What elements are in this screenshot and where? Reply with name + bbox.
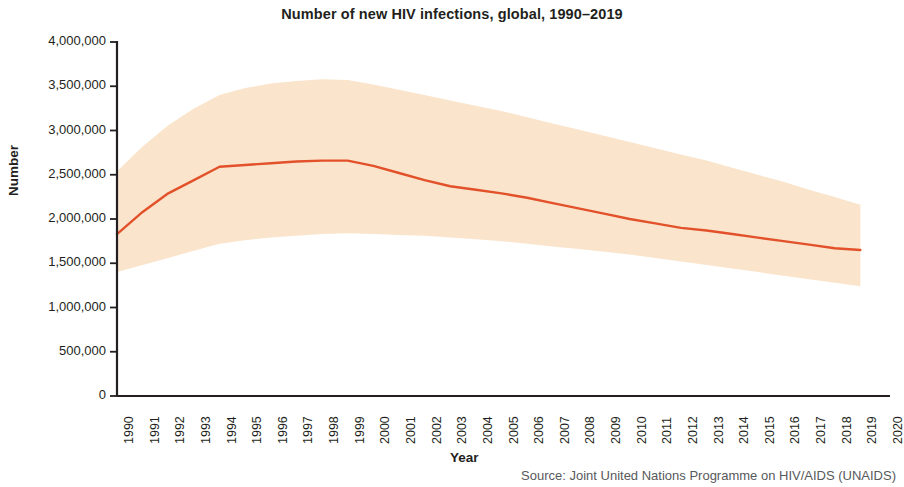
- uncertainty-band: [117, 79, 860, 286]
- x-tick-label-9: 1999: [353, 416, 367, 444]
- x-tick-label-11: 2001: [404, 416, 418, 444]
- y-tick-label-8: 4,000,000: [48, 33, 106, 48]
- x-tick-label-4: 1994: [225, 416, 239, 444]
- x-tick-label-10: 2000: [378, 416, 392, 444]
- x-tick-label-21: 2011: [660, 417, 674, 444]
- x-tick-label-28: 2018: [840, 416, 854, 444]
- x-tick-label-29: 2019: [865, 416, 879, 444]
- y-tick-label-2: 1,000,000: [48, 299, 106, 314]
- x-tick-label-18: 2008: [583, 416, 597, 444]
- y-tick-label-7: 3,500,000: [48, 77, 106, 92]
- x-tick-label-0: 1990: [122, 416, 136, 444]
- y-tick-label-1: 500,000: [59, 343, 106, 358]
- x-tick-label-22: 2012: [686, 416, 700, 444]
- x-axis-title: Year: [450, 450, 479, 465]
- chart-figure: Number of new HIV infections, global, 19…: [0, 0, 904, 487]
- x-tick-label-26: 2016: [788, 416, 802, 444]
- x-tick-label-23: 2013: [712, 416, 726, 444]
- x-tick-label-19: 2009: [609, 416, 623, 444]
- x-tick-label-6: 1996: [276, 416, 290, 444]
- x-tick-label-27: 2017: [814, 416, 828, 444]
- x-tick-label-30: 2020: [891, 416, 904, 444]
- x-tick-label-20: 2010: [635, 416, 649, 444]
- y-tick-label-5: 2,500,000: [48, 166, 106, 181]
- x-tick-label-25: 2015: [763, 416, 777, 444]
- x-tick-label-3: 1993: [199, 416, 213, 444]
- x-tick-label-15: 2005: [507, 416, 521, 444]
- x-tick-label-13: 2003: [455, 416, 469, 444]
- x-tick-label-12: 2002: [430, 416, 444, 444]
- y-tick-label-4: 2,000,000: [48, 210, 106, 225]
- y-tick-label-3: 1,500,000: [48, 254, 106, 269]
- x-tick-label-1: 1991: [148, 416, 162, 444]
- x-tick-label-7: 1997: [301, 416, 315, 444]
- x-tick-label-17: 2007: [558, 416, 572, 444]
- y-axis-title: Number: [6, 145, 21, 196]
- x-tick-label-2: 1992: [173, 416, 187, 444]
- x-tick-label-8: 1998: [327, 416, 341, 444]
- x-tick-label-16: 2006: [532, 416, 546, 444]
- chart-plot-area: [0, 0, 904, 487]
- source-note: Source: Joint United Nations Programme o…: [521, 468, 896, 483]
- y-tick-label-6: 3,000,000: [48, 122, 106, 137]
- y-tick-label-0: 0: [99, 387, 106, 402]
- uncertainty-band-area: [117, 79, 860, 286]
- x-tick-label-5: 1995: [250, 416, 264, 444]
- x-tick-label-24: 2014: [737, 416, 751, 444]
- x-tick-label-14: 2004: [481, 416, 495, 444]
